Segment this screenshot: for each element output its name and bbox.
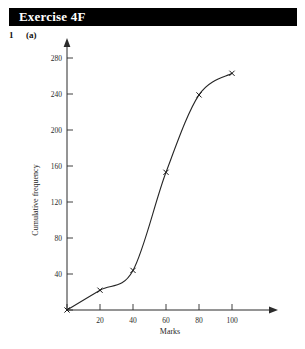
y-axis-arrow-icon [64,38,71,47]
y-axis: 4080120160200240280 Cumulative frequency [31,38,73,310]
y-axis-tick-labels: 4080120160200240280 [51,54,63,279]
x-axis-title: Marks [160,327,180,336]
x-tick-label: 40 [129,316,137,325]
data-point-markers [64,71,234,313]
y-tick-label: 160 [51,162,63,171]
chart-svg: 4080120160200240280 Cumulative frequency… [0,0,305,349]
data-point-marker [130,268,135,273]
x-tick-label: 80 [195,316,203,325]
y-tick-label: 240 [51,90,63,99]
y-tick-label: 120 [51,198,63,207]
x-tick-label: 20 [96,316,104,325]
x-axis-ticks [67,304,232,310]
y-tick-label: 40 [55,270,63,279]
data-point-marker [97,288,102,293]
x-axis: 20406080100 Marks [67,304,278,336]
y-tick-label: 80 [55,234,63,243]
y-tick-label: 280 [51,54,63,63]
cumulative-frequency-curve [67,73,232,310]
y-tick-label: 200 [51,126,63,135]
y-axis-title: Cumulative frequency [31,164,40,235]
cumulative-frequency-chart: 4080120160200240280 Cumulative frequency… [0,0,305,349]
x-axis-arrow-icon [269,307,278,314]
x-tick-label: 100 [226,316,238,325]
y-axis-ticks [67,58,73,310]
x-tick-label: 60 [162,316,170,325]
data-point-marker [163,170,168,175]
x-axis-tick-labels: 20406080100 [96,316,238,325]
data-point-marker [229,71,234,76]
data-point-marker [196,92,201,97]
